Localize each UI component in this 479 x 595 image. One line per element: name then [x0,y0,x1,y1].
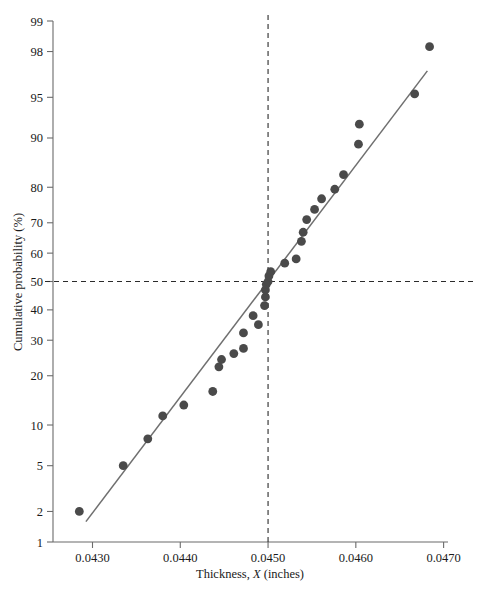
x-title-prefix: Thickness, [196,567,253,581]
data-point [292,254,301,263]
y-tick-label-90: 90 [31,131,44,145]
data-point [158,412,167,421]
y-tick-label-98: 98 [31,45,44,59]
x-tick-label-0.0450: 0.0450 [251,551,285,565]
data-point [299,228,308,237]
data-point [330,185,339,194]
data-point [75,507,84,516]
x-tick-label-0.0460: 0.0460 [339,551,373,565]
data-point [217,355,226,364]
scatter-points [75,42,434,516]
y-tick-label-40: 40 [31,303,44,317]
data-point [339,170,348,179]
fit-line-segment [86,71,427,522]
data-point [302,215,311,224]
y-tick-label-30: 30 [31,334,44,348]
y-tick-label-80: 80 [31,181,44,195]
x-title-suffix: (inches) [261,567,304,581]
x-axis-title: Thickness, X (inches) [196,567,304,581]
x-tick-label-0.0440: 0.0440 [163,551,197,565]
plot-svg: 125102030405060708090959899 0.04300.0440… [0,0,479,595]
y-tick-label-50: 50 [31,275,44,289]
y-axis-title: Cumulative probability (%) [11,213,25,351]
data-point [354,140,363,149]
data-point [249,311,258,320]
data-point [119,461,128,470]
data-point [410,90,419,99]
x-axis-ticks: 0.04300.04400.04500.04600.0470 [75,542,460,565]
data-point [239,344,248,353]
data-point [297,237,306,246]
x-tick-label-0.0470: 0.0470 [426,551,460,565]
x-tick-label-0.0430: 0.0430 [75,551,109,565]
y-tick-label-2: 2 [37,505,43,519]
y-tick-label-95: 95 [31,91,44,105]
data-point [260,301,269,310]
data-point [425,42,434,51]
data-point [179,401,188,410]
y-tick-label-10: 10 [31,419,44,433]
data-point [208,387,217,396]
y-tick-label-5: 5 [37,459,43,473]
y-tick-label-20: 20 [31,369,44,383]
fit-line [86,71,427,522]
data-point [143,434,152,443]
data-point [254,320,263,329]
y-tick-label-1: 1 [37,536,43,550]
data-point [266,267,275,276]
data-point [355,120,364,129]
data-point [280,259,289,268]
data-point [310,205,319,214]
data-point [229,349,238,358]
data-point [317,194,326,203]
normal-probability-plot-figure: 125102030405060708090959899 0.04300.0440… [0,0,479,595]
y-tick-label-99: 99 [31,15,44,29]
data-point [239,329,248,338]
y-tick-label-70: 70 [31,216,44,230]
y-tick-label-60: 60 [31,247,44,261]
